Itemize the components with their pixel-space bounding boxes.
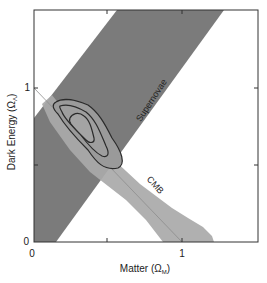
cosmology-chart: 0 1 0 1 Matter (ΩM) Dark Energy (ΩΛ) Sup… bbox=[0, 0, 267, 283]
y-tick-1: 1 bbox=[24, 82, 30, 93]
y-tick-0: 0 bbox=[23, 236, 29, 247]
plot-area bbox=[34, 10, 224, 242]
x-tick-0: 0 bbox=[29, 248, 35, 259]
x-tick-1: 1 bbox=[179, 248, 185, 259]
y-axis-label: Dark Energy (ΩΛ) bbox=[6, 94, 18, 171]
x-axis-label: Matter (ΩM) bbox=[120, 263, 170, 275]
